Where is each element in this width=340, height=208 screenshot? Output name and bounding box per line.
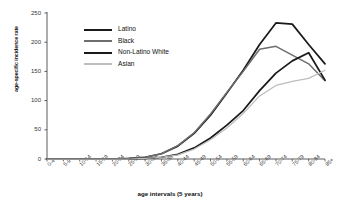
- legend-item-non-latino-white: Non-Latino White: [84, 47, 169, 59]
- series-line-asian: [47, 70, 325, 159]
- legend-item-black: Black: [84, 36, 169, 48]
- chart-legend: Latino Black Non-Latino White Asian: [84, 24, 169, 70]
- legend-swatch-non-latino-white: [84, 52, 112, 54]
- legend-label-black: Black: [118, 38, 134, 45]
- legend-label-latino: Latino: [118, 26, 136, 33]
- legend-swatch-black: [84, 40, 112, 42]
- legend-item-latino: Latino: [84, 24, 169, 36]
- legend-swatch-latino: [84, 29, 112, 31]
- legend-swatch-asian: [84, 63, 112, 65]
- legend-label-non-latino-white: Non-Latino White: [118, 49, 169, 56]
- plot-area: [0, 0, 340, 208]
- legend-item-asian: Asian: [84, 59, 169, 71]
- legend-label-asian: Asian: [118, 61, 135, 68]
- chart-figure: age-specific incidence rate age interval…: [0, 0, 340, 208]
